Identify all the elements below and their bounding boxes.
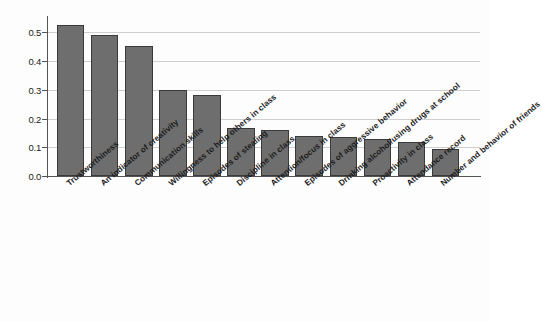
bar [57,25,84,176]
y-tick-label: 0.5 [0,27,41,38]
y-tick-label: 0.4 [0,56,41,67]
y-tick-label: 0.2 [0,113,41,124]
y-tick-label: 0.3 [0,84,41,95]
y-tick-label: 0.1 [0,142,41,153]
y-tick-label: 0.0 [0,171,41,182]
